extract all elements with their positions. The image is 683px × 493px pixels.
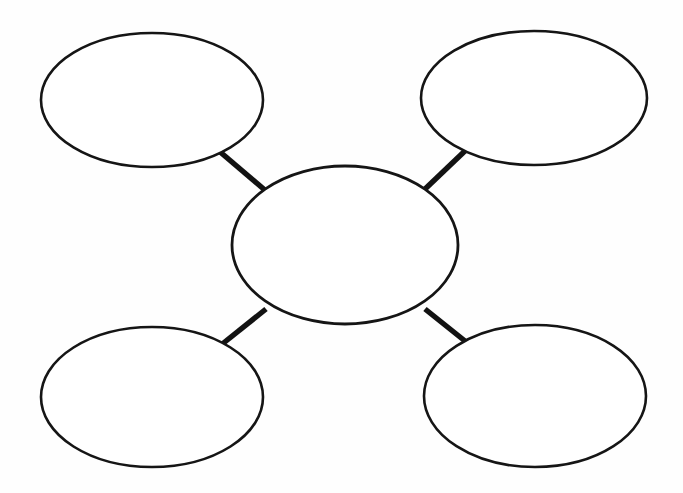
connector-top-left-line[interactable] — [219, 151, 266, 191]
node-center[interactable] — [232, 166, 458, 324]
node-bottom-right-ellipse[interactable] — [424, 325, 646, 467]
node-bottom-left-ellipse[interactable] — [41, 327, 263, 467]
concept-map-diagram — [0, 0, 683, 493]
node-bottom-right[interactable] — [424, 325, 646, 467]
connector-bottom-right-line[interactable] — [425, 309, 470, 345]
node-top-left[interactable] — [41, 33, 263, 167]
connector-bottom-left-line[interactable] — [221, 309, 266, 345]
node-top-left-ellipse[interactable] — [41, 33, 263, 167]
node-center-ellipse[interactable] — [232, 166, 458, 324]
concept-map-canvas — [0, 0, 683, 493]
connector-top-right-line[interactable] — [424, 149, 467, 190]
node-top-right-ellipse[interactable] — [421, 31, 647, 165]
node-bottom-left[interactable] — [41, 327, 263, 467]
node-top-right[interactable] — [421, 31, 647, 165]
